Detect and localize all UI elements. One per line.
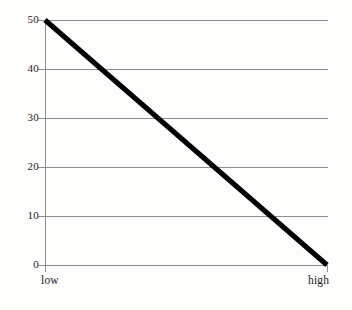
chart-figure: 50 40 30 20 10 0 low high <box>0 0 352 310</box>
series-layer <box>0 0 352 310</box>
data-line-series-1 <box>45 20 327 265</box>
plot-area: 50 40 30 20 10 0 low high <box>0 0 352 310</box>
